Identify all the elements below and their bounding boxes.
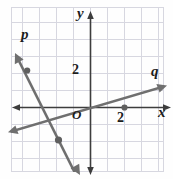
line-p-label: p	[21, 27, 29, 42]
point-on-line-p	[24, 67, 30, 73]
x-axis-tick-label-2: 2	[117, 111, 124, 125]
origin-label: O	[72, 108, 81, 121]
line-q-label: q	[151, 64, 159, 79]
intersection-point	[55, 136, 62, 143]
graph-figure: y x p q O 2 2	[0, 0, 173, 179]
x-axis-label: x	[158, 105, 166, 120]
y-axis-label: y	[77, 6, 84, 21]
y-axis-tick-label-2: 2	[72, 63, 79, 77]
